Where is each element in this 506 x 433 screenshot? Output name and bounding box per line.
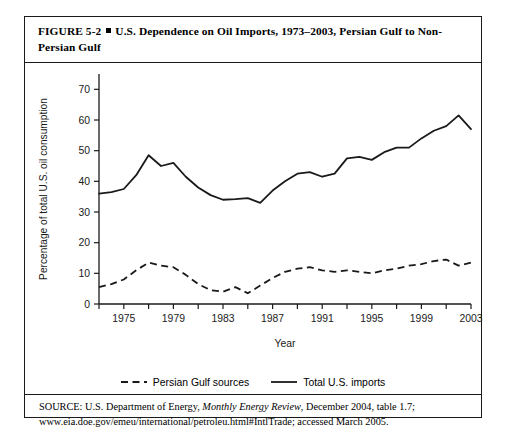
x-tick-label: 1995 [360,313,383,324]
y-tick-label: 60 [78,115,90,126]
figure-number: FIGURE 5-2 [38,25,101,37]
legend-label-persian-gulf: Persian Gulf sources [153,377,249,388]
source-divider [25,394,481,395]
y-tick-label: 70 [78,84,90,95]
x-tick-label: 1991 [311,313,334,324]
y-tick-label: 20 [78,237,90,248]
y-axis-title: Percentage of total U.S. oil consumption [38,98,49,280]
x-tick-label: 1983 [211,313,234,324]
source-note: SOURCE: U.S. Department of Energy, Month… [25,396,481,429]
line-chart: 010203040506070 197519791983198719911995… [25,62,483,374]
series-line-total-us-imports [99,115,471,202]
figure-container: FIGURE 5-2U.S. Dependence on Oil Imports… [24,16,482,418]
y-tick-label: 50 [78,145,90,156]
x-tick-label: 1975 [112,313,135,324]
x-tick-label: 1999 [410,313,433,324]
source-suffix: , December 2004, table 1.7; [301,401,415,412]
legend-label-total-us-imports: Total U.S. imports [303,377,385,388]
solid-line-swatch-icon [271,378,297,386]
y-tick-label: 30 [78,207,90,218]
plot-area: 010203040506070 197519791983198719911995… [25,62,481,374]
y-tick-label: 0 [84,299,90,310]
series-line-persian-gulf-sources [99,260,471,294]
source-prefix: SOURCE: U.S. Department of Energy, [39,401,202,412]
legend-item-persian-gulf: Persian Gulf sources [121,377,249,388]
x-tick-label: 1979 [162,313,185,324]
x-axis-title: Year [275,338,297,349]
y-axis-ticks [94,89,99,304]
y-axis-tick-labels: 010203040506070 [78,84,90,310]
x-tick-label: 2003 [459,313,482,324]
figure-caption: FIGURE 5-2U.S. Dependence on Oil Imports… [25,17,481,63]
square-bullet-icon [106,28,111,33]
y-tick-label: 10 [78,268,90,279]
dashed-line-swatch-icon [121,378,147,386]
legend-item-total-us-imports: Total U.S. imports [271,377,385,388]
source-publication: Monthly Energy Review [202,401,301,412]
x-axis-tick-labels: 19751979198319871991199519992003 [112,313,483,324]
x-axis-ticks [99,304,471,309]
y-tick-label: 40 [78,176,90,187]
x-tick-label: 1987 [261,313,284,324]
source-url-line: www.eia.doe.gov/emeu/international/petro… [39,415,467,430]
chart-legend: Persian Gulf sources Total U.S. imports [25,369,481,395]
